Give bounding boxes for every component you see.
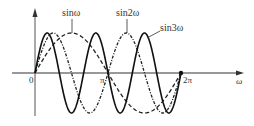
label-sin1: sinω — [62, 7, 81, 18]
label-sin2: sin2ω — [116, 7, 140, 18]
sine-chart: 0 π 2π ω sinω sin2ω sin3ω — [0, 0, 254, 126]
origin-label: 0 — [29, 75, 34, 85]
label-sin3: sin3ω — [160, 22, 184, 33]
leader-sin3 — [147, 31, 160, 38]
y-axis-arrow-icon — [33, 8, 38, 17]
two-pi-label: 2π — [183, 75, 193, 85]
pi-label: π — [100, 75, 105, 85]
x-axis-arrow-icon — [236, 71, 244, 76]
x-axis-label: ω — [236, 76, 242, 86]
